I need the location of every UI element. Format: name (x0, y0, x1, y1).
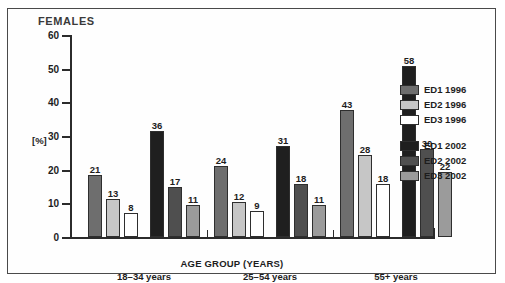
x-axis-end-tick (433, 228, 435, 237)
bar-value-label: 24 (216, 155, 227, 166)
bar-value-label: 43 (342, 99, 353, 110)
legend-item: ED2 1996 (400, 98, 466, 111)
chart-legend: ED1 1996ED2 1996ED3 1996ED1 2002ED2 2002… (400, 83, 466, 184)
bar-value-label: 13 (108, 188, 119, 199)
bar: 43 (340, 110, 354, 237)
x-axis-line (70, 237, 435, 239)
bar: 21 (88, 175, 102, 237)
y-axis-tick (62, 237, 70, 239)
legend-item-label: ED1 1996 (424, 84, 466, 95)
legend-swatch-icon (400, 141, 419, 151)
bar-value-label: 9 (254, 200, 259, 211)
bar-value-label: 21 (90, 164, 101, 175)
bar: 9 (250, 211, 264, 238)
bar: 36 (150, 131, 164, 237)
y-axis-tick (62, 102, 70, 104)
legend-item-label: ED2 2002 (424, 155, 466, 166)
bar: 28 (358, 155, 372, 237)
legend-swatch-icon (400, 100, 419, 110)
chart-title: FEMALES (38, 15, 95, 27)
y-axis-tick-label: 50 (48, 63, 59, 74)
legend-item-label: ED1 2002 (424, 140, 466, 151)
y-axis-tick-label: 0 (53, 232, 59, 243)
legend-swatch-icon (400, 171, 419, 181)
y-axis-tick-label: 30 (48, 131, 59, 142)
legend-item: ED1 1996 (400, 83, 466, 96)
y-axis-tick-label: 20 (48, 164, 59, 175)
legend-swatch-icon (400, 156, 419, 166)
legend-item: ED3 2002 (400, 169, 466, 182)
bar: 11 (312, 205, 326, 237)
bar: 13 (106, 199, 120, 237)
group-separator-tick (333, 230, 334, 237)
bar: 18 (294, 184, 308, 237)
x-axis-group-label: 55+ years (374, 271, 418, 282)
bar-value-label: 12 (234, 191, 245, 202)
bar-value-label: 31 (278, 135, 289, 146)
y-axis-tick (62, 69, 70, 71)
y-axis-tick-label: 40 (48, 97, 59, 108)
legend-spacer (400, 128, 466, 139)
bar-value-label: 18 (296, 173, 307, 184)
x-axis-group-label: 25–54 years (243, 271, 297, 282)
bar-value-label: 18 (378, 173, 389, 184)
x-axis-group-label: 18–34 years (117, 271, 171, 282)
x-axis-title: AGE GROUP (YEARS) (181, 258, 284, 269)
bar: 24 (214, 166, 228, 237)
plot-area: 0102030405060 21138361711241293118114328… (70, 35, 375, 237)
chart-figure: FEMALES [%] 0102030405060 21138361711241… (7, 8, 496, 274)
bar-value-label: 11 (314, 194, 324, 205)
legend-swatch-icon (400, 115, 419, 125)
legend-item: ED2 2002 (400, 154, 466, 167)
legend-item-label: ED3 1996 (424, 114, 466, 125)
y-axis-unit-label: [%] (32, 135, 47, 146)
y-axis-tick (62, 170, 70, 172)
bar-value-label: 36 (152, 120, 163, 131)
legend-item-label: ED2 1996 (424, 99, 466, 110)
bar: 17 (168, 187, 182, 237)
y-axis-tick-label: 10 (48, 198, 59, 209)
legend-swatch-icon (400, 85, 419, 95)
bar-value-label: 8 (128, 202, 133, 213)
bar: 31 (276, 146, 290, 237)
bar: 18 (376, 184, 390, 237)
y-axis-tick-label: 60 (48, 30, 59, 41)
legend-item-label: ED3 2002 (424, 170, 466, 181)
bar: 12 (232, 202, 246, 237)
bar-value-label: 28 (360, 144, 371, 155)
y-axis-tick (62, 35, 70, 37)
y-axis-tick (62, 203, 70, 205)
bar-value-label: 17 (170, 176, 181, 187)
legend-item: ED1 2002 (400, 139, 466, 152)
legend-item: ED3 1996 (400, 113, 466, 126)
bar: 8 (124, 213, 138, 237)
bar: 11 (186, 205, 200, 237)
bar-value-label: 58 (404, 55, 415, 66)
y-axis-tick (62, 136, 70, 138)
bar-value-label: 11 (188, 194, 198, 205)
group-separator-tick (207, 230, 208, 237)
